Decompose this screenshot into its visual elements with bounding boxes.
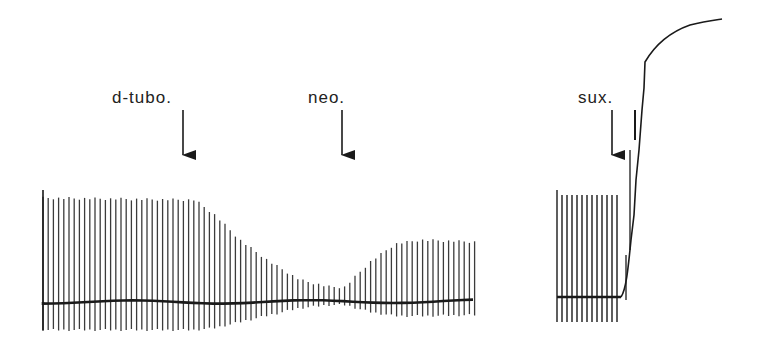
drug-label-neo: neo. [308,89,345,106]
drug-label-dtubo: d-tubo. [112,89,172,106]
myograph-figure [0,0,759,344]
drug-label-sux: sux. [578,89,613,106]
twitch-trace-right [557,19,722,322]
twitch-trace-left [43,190,475,331]
drug-arrows [183,110,612,155]
